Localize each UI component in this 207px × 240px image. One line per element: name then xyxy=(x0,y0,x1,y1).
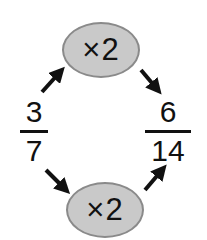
bottom-operation-label: ×2 xyxy=(86,192,123,228)
left-numerator: 3 xyxy=(26,97,43,130)
right-fraction: 6 14 xyxy=(145,97,191,166)
right-denominator: 14 xyxy=(151,133,184,166)
bottom-operation-ellipse: ×2 xyxy=(66,182,144,238)
arrow-left-to-bottom xyxy=(46,170,65,189)
arrow-up-left-to-top xyxy=(42,72,60,92)
arrow-top-to-right xyxy=(141,70,157,89)
left-fraction: 3 7 xyxy=(20,97,48,166)
arrow-bottom-to-right xyxy=(145,170,162,190)
left-denominator: 7 xyxy=(26,133,43,166)
right-numerator: 6 xyxy=(160,97,177,130)
top-operation-label: ×2 xyxy=(82,32,119,68)
top-operation-ellipse: ×2 xyxy=(62,22,140,78)
